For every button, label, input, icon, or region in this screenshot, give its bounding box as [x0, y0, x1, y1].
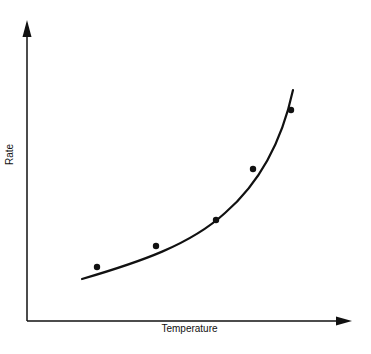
y-axis-label: Rate	[4, 144, 15, 165]
fitted-curve	[82, 90, 293, 279]
data-point	[250, 166, 256, 172]
data-point	[288, 107, 294, 113]
x-axis-label: Temperature	[161, 323, 217, 334]
y-axis-arrow-icon	[23, 20, 32, 37]
data-point	[153, 243, 159, 249]
y-axis	[23, 20, 32, 321]
x-axis-label-container: Temperature	[0, 323, 371, 334]
chart-canvas	[0, 0, 371, 354]
data-point	[94, 264, 100, 270]
data-point	[213, 217, 219, 223]
data-points	[94, 107, 294, 270]
